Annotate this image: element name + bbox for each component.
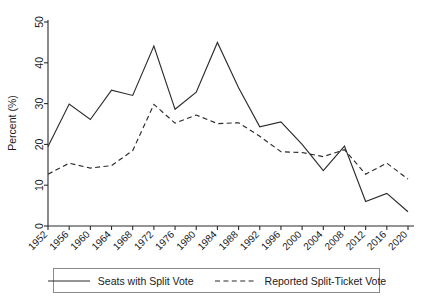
- chart-legend: Seats with Split Vote Reported Split-Tic…: [53, 268, 380, 293]
- legend-entry-reported-split-ticket-vote: Reported Split-Ticket Vote: [214, 269, 387, 292]
- x-tick-label: 1972: [132, 228, 156, 252]
- x-tick-label: 1968: [111, 228, 135, 252]
- x-tick-label: 1960: [68, 228, 92, 252]
- x-tick-label: 2008: [322, 228, 346, 252]
- x-tick-label: 2004: [301, 228, 325, 252]
- x-tick-label: 1976: [153, 228, 177, 252]
- legend-swatch-dashed-line-icon: [214, 276, 258, 286]
- y-axis-title: Percent (%): [6, 95, 18, 150]
- x-tick-label: 1996: [259, 228, 283, 252]
- legend-label-reported-split-ticket-vote: Reported Split-Ticket Vote: [265, 275, 387, 287]
- legend-swatch-solid-line-icon: [47, 276, 91, 286]
- x-axis-ticks: [48, 226, 408, 230]
- y-tick-label: 40: [33, 57, 45, 69]
- y-tick-label: 30: [33, 98, 45, 110]
- x-axis-tick-labels: 1952195619601964196819721976198019841988…: [26, 228, 410, 252]
- x-tick-label: 2020: [386, 228, 410, 252]
- x-tick-label: 1964: [89, 228, 113, 252]
- y-axis-ticks: [44, 22, 48, 226]
- y-tick-label: 20: [33, 138, 45, 150]
- y-axis-tick-labels: 01020304050: [33, 16, 45, 229]
- x-tick-label: 2000: [280, 228, 304, 252]
- series-line-reported-split-ticket-vote: [48, 104, 408, 179]
- x-tick-label: 1952: [26, 228, 50, 252]
- x-tick-label: 1984: [195, 228, 219, 252]
- y-tick-label: 0: [33, 223, 45, 229]
- data-series-group: [48, 42, 408, 211]
- x-tick-label: 1980: [174, 228, 198, 252]
- series-line-seats-with-split-vote: [48, 42, 408, 211]
- x-tick-label: 1992: [238, 228, 262, 252]
- chart-figure: 01020304050 1952195619601964196819721976…: [0, 0, 432, 300]
- x-tick-label: 2016: [365, 228, 389, 252]
- x-tick-label: 2012: [344, 228, 368, 252]
- y-tick-label: 10: [33, 179, 45, 191]
- x-tick-label: 1988: [216, 228, 240, 252]
- y-tick-label: 50: [33, 16, 45, 28]
- x-tick-label: 1956: [47, 228, 71, 252]
- plot-area: 01020304050 1952195619601964196819721976…: [0, 0, 432, 300]
- legend-entry-seats-with-split-vote: Seats with Split Vote: [47, 269, 194, 292]
- legend-label-seats-with-split-vote: Seats with Split Vote: [98, 275, 194, 287]
